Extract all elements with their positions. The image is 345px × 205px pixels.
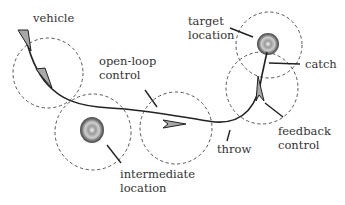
open-loop-arrowhead-icon: [163, 120, 186, 128]
throw-leader: [227, 130, 230, 141]
feedback-label-line1: feedback: [278, 124, 332, 138]
start-region-circle: [13, 38, 83, 108]
catch-leader: [269, 63, 300, 64]
open-loop-label-line1: open-loop: [99, 54, 156, 68]
throw-label: throw: [217, 142, 251, 156]
target-location-blob: [257, 33, 279, 55]
intermediate-label-line2: location: [120, 181, 167, 195]
feedback-region-circle: [226, 52, 298, 124]
feedback-leader: [265, 103, 283, 117]
intermediate-leader: [107, 145, 121, 163]
trajectory-diagram: vehicle open-loop control target locatio…: [0, 0, 345, 205]
feedback-label-line2: control: [278, 138, 320, 152]
intermediate-location-blob: [80, 117, 104, 143]
target-label-line2: location: [188, 28, 235, 42]
start-arrowhead-icon: [18, 30, 31, 51]
feedback-arrowhead-icon: [256, 76, 264, 101]
open-loop-label-line2: control: [99, 68, 141, 82]
vehicle-label: vehicle: [32, 11, 75, 25]
open-loop-region-circle: [140, 92, 212, 164]
mid-arrowhead-icon: [36, 68, 52, 88]
target-label-line1: target: [188, 14, 224, 28]
catch-label: catch: [305, 57, 337, 71]
intermediate-label-line1: intermediate: [120, 167, 195, 181]
